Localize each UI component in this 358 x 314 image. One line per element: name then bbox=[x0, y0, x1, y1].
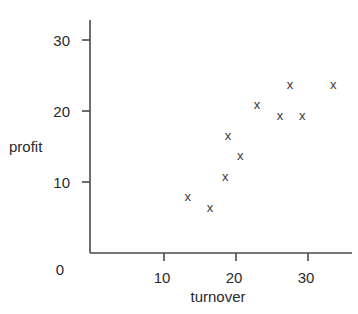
x-marker-icon: x bbox=[237, 148, 244, 163]
y-tick-label: 30 bbox=[53, 32, 70, 49]
x-tick-label: 20 bbox=[226, 269, 243, 286]
origin-label: 0 bbox=[56, 261, 64, 278]
x-marker-icon: x bbox=[222, 169, 229, 184]
y-axis-ticks: 102030 bbox=[53, 32, 90, 191]
y-tick-label: 10 bbox=[53, 174, 70, 191]
x-marker-icon: x bbox=[299, 108, 306, 123]
x-tick-label: 10 bbox=[154, 269, 171, 286]
x-marker-icon: x bbox=[330, 77, 337, 92]
y-tick-label: 20 bbox=[53, 103, 70, 120]
chart-axes bbox=[90, 20, 352, 253]
y-axis-label: profit bbox=[9, 138, 43, 155]
x-marker-icon: x bbox=[185, 189, 192, 204]
x-marker-icon: x bbox=[287, 77, 294, 92]
x-axis-label: turnover bbox=[190, 288, 245, 305]
x-marker-icon: x bbox=[225, 128, 232, 143]
x-marker-icon: x bbox=[207, 200, 214, 215]
data-points: xxxxxxxxxx bbox=[185, 77, 337, 216]
x-marker-icon: x bbox=[277, 108, 284, 123]
x-tick-label: 30 bbox=[298, 269, 315, 286]
x-marker-icon: x bbox=[254, 97, 261, 112]
x-axis-ticks: 102030 bbox=[154, 253, 315, 286]
scatter-chart: 102030 102030 0 profit turnover xxxxxxxx… bbox=[0, 0, 358, 314]
